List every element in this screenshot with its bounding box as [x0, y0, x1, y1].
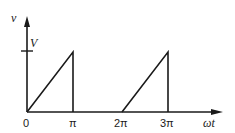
- x-tick-2pi: 2π: [114, 117, 128, 129]
- x-tick-0: 0: [23, 117, 29, 129]
- ramp-2: [122, 52, 168, 112]
- x-axis-arrow-icon: [211, 109, 223, 115]
- v-tick-label: V: [30, 36, 39, 50]
- x-axis-label: ωt: [203, 116, 215, 130]
- x-tick-3pi: 3π: [160, 117, 174, 129]
- y-axis-arrow-icon: [24, 16, 30, 27]
- waveform-diagram: v V 0 π 2π 3π ωt: [0, 0, 235, 133]
- ramp-1: [27, 52, 73, 112]
- y-axis-label: v: [11, 11, 17, 25]
- x-tick-pi: π: [69, 117, 77, 129]
